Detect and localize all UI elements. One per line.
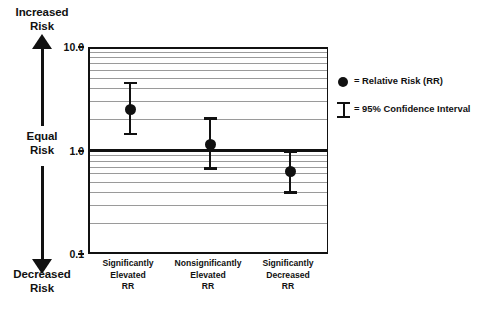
axis-boundary-line — [90, 47, 327, 49]
y-tick-mark — [78, 253, 84, 255]
relative-risk-point — [205, 139, 216, 150]
x-category-label-line: RR — [87, 281, 169, 293]
plot-frame — [88, 47, 328, 254]
relative-risk-point — [125, 104, 136, 115]
increased-risk-label: Increased Risk — [0, 6, 84, 33]
filled-circle-icon — [336, 72, 354, 92]
legend-label-confidence-interval: = 95% Confidence Interval — [354, 103, 470, 114]
y-tick-mark — [78, 46, 84, 48]
plot-area — [88, 47, 328, 254]
legend-label-relative-risk: = Relative Risk (RR) — [354, 75, 443, 86]
x-category-label-line: Elevated — [87, 270, 169, 282]
x-category-label-line: Elevated — [167, 270, 249, 282]
x-category-label: SignificantlyDecreasedRR — [247, 258, 329, 293]
gridline — [90, 223, 327, 224]
x-category-label-line: RR — [247, 281, 329, 293]
gridline — [90, 88, 327, 89]
x-category-label: SignificantlyElevatedRR — [87, 258, 169, 293]
x-category-label-line: RR — [167, 281, 249, 293]
axis-boundary-line — [90, 252, 327, 254]
gridline — [90, 205, 327, 206]
gridline — [90, 63, 327, 64]
gridline — [90, 182, 327, 183]
confidence-interval-cap — [124, 133, 137, 136]
forest-plot-figure: Increased Risk Equal Risk Decreased Risk… — [0, 0, 477, 309]
y-tick-mark — [78, 150, 84, 152]
legend: = Relative Risk (RR) = 95% Confidence In… — [336, 72, 476, 130]
x-axis-category-labels: SignificantlyElevatedRRNonsignificantlyE… — [88, 258, 328, 306]
gridline — [90, 70, 327, 71]
decreased-risk-label: Decreased Risk — [0, 268, 84, 295]
confidence-interval-cap — [284, 151, 297, 154]
confidence-interval-cap — [204, 117, 217, 120]
confidence-interval-cap — [284, 191, 297, 194]
gridline — [90, 78, 327, 79]
x-category-label-line: Significantly — [247, 258, 329, 270]
x-category-label: NonsignificantlyElevatedRR — [167, 258, 249, 293]
y-axis-tick-labels: 10.01.00.1 — [38, 47, 84, 254]
confidence-interval-cap — [124, 82, 137, 85]
x-category-label-line: Significantly — [87, 258, 169, 270]
i-bar-icon — [336, 100, 354, 120]
confidence-interval-cap — [204, 167, 217, 170]
gridline — [90, 52, 327, 53]
relative-risk-point — [285, 166, 296, 177]
gridline — [90, 57, 327, 58]
x-category-label-line: Decreased — [247, 270, 329, 282]
gridline — [90, 101, 327, 102]
x-category-label-line: Nonsignificantly — [167, 258, 249, 270]
